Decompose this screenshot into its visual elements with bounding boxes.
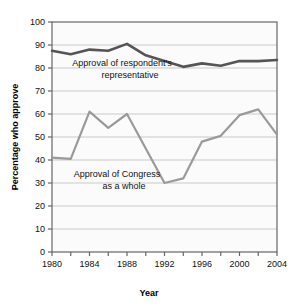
x-tick-label-1988: 1988 [117,259,137,269]
x-axis-title: Year [139,288,159,298]
y-tick-label-100: 100 [30,17,45,27]
y-tick-label-20: 20 [35,201,45,211]
annotation-representative-line1: Approval of respondent's [72,58,172,68]
y-tick-label-30: 30 [35,178,45,188]
y-tick-label-0: 0 [40,247,45,257]
x-tick-label-2004: 2004 [267,259,287,269]
y-axis-title: Percentage who approve [10,84,20,191]
annotation-representative-line2: representative [101,70,158,80]
y-tick-label-80: 80 [35,63,45,73]
y-tick-label-10: 10 [35,224,45,234]
annotation-congress-line2: as a whole [102,181,145,191]
annotation-congress-line1: Approval of Congress [74,169,161,179]
y-tick-label-50: 50 [35,132,45,142]
x-tick-label-1980: 1980 [42,259,62,269]
y-tick-label-60: 60 [35,109,45,119]
x-tick-label-1996: 1996 [192,259,212,269]
x-tick-label-2000: 2000 [229,259,249,269]
x-tick-label-1992: 1992 [154,259,174,269]
y-tick-label-70: 70 [35,86,45,96]
approval-line-chart: 0102030405060708090100 19801984198819921… [0,0,298,308]
x-tick-label-1984: 1984 [79,259,99,269]
chart-container: 0102030405060708090100 19801984198819921… [0,0,298,308]
y-tick-label-90: 90 [35,40,45,50]
y-tick-label-40: 40 [35,155,45,165]
